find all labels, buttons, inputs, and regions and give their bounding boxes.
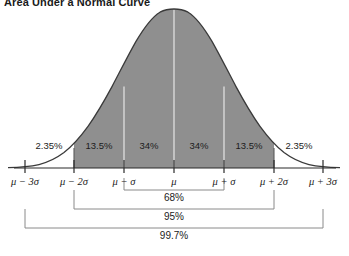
region-percent-label: 2.35% xyxy=(286,140,313,151)
bracket-label-997: 99.7% xyxy=(160,230,188,241)
bracket-label-95: 95% xyxy=(164,211,184,222)
region-percent-label: 34% xyxy=(139,140,158,151)
axis-tick-label-plus-2sd: μ + 2σ xyxy=(260,176,288,187)
region-percent-label: 13.5% xyxy=(86,140,113,151)
axis-tick-label-mean: μ xyxy=(171,176,176,187)
axis-tick-label-minus-1sd: μ − σ xyxy=(113,176,136,187)
region-percent-label: 34% xyxy=(189,140,208,151)
axis-tick-label-plus-3sd: μ + 3σ xyxy=(309,176,337,187)
axis-tick-label-minus-3sd: μ − 3σ xyxy=(11,176,39,187)
axis-tick-label-minus-2sd: μ − 2σ xyxy=(60,176,88,187)
axis-tick-label-plus-1sd: μ + σ xyxy=(213,176,236,187)
axis-ticks xyxy=(25,160,323,173)
region-percent-label: 2.35% xyxy=(36,140,63,151)
normal-curve-figure: Area Under a Normal Curve xyxy=(0,0,349,256)
region-percent-label: 13.5% xyxy=(236,140,263,151)
bracket-label-68: 68% xyxy=(164,192,184,203)
